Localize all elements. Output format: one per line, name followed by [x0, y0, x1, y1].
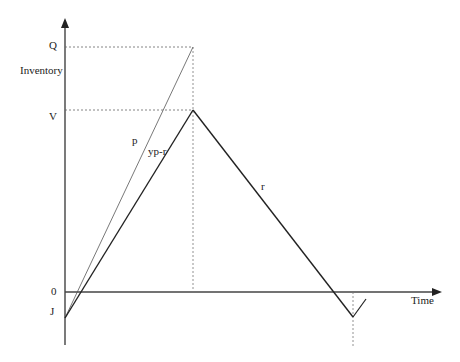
q-label: Q	[49, 39, 57, 51]
buildup-line	[65, 110, 193, 318]
next-cycle-line	[353, 299, 366, 317]
p-label: p	[132, 134, 138, 146]
r-label: r	[261, 180, 265, 192]
v-label: V	[49, 110, 57, 122]
y-axis-arrow-icon	[61, 18, 69, 28]
zero-label: 0	[51, 285, 57, 297]
j-label: J	[50, 305, 54, 317]
y-axis-label: Inventory	[20, 64, 63, 76]
x-axis-label: Time	[411, 294, 434, 306]
demand-line	[193, 110, 353, 317]
inventory-diagram	[0, 0, 460, 362]
production-rate-line	[65, 47, 193, 318]
yp-r-label: yp-r	[148, 145, 166, 157]
